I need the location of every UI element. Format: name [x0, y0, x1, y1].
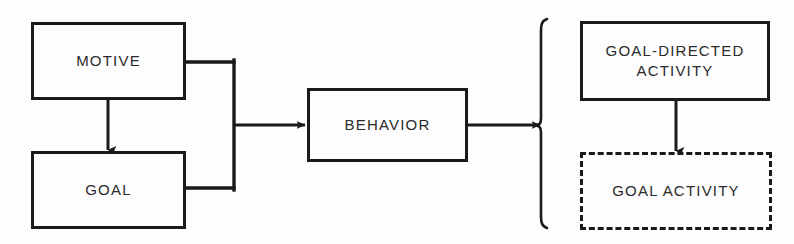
diagram-canvas: MOTIVE GOAL BEHAVIOR GOAL-DIRECTED ACTIV…: [0, 0, 794, 244]
node-goal-activity-label: GOAL ACTIVITY: [612, 181, 740, 201]
node-behavior-label: BEHAVIOR: [344, 115, 430, 135]
node-behavior[interactable]: BEHAVIOR: [307, 88, 468, 162]
node-motive[interactable]: MOTIVE: [31, 22, 186, 100]
node-motive-label: MOTIVE: [76, 51, 141, 71]
node-goal-directed-activity-label: GOAL-DIRECTED ACTIVITY: [606, 41, 745, 81]
node-goal-directed-activity[interactable]: GOAL-DIRECTED ACTIVITY: [580, 21, 770, 101]
node-goal[interactable]: GOAL: [31, 151, 186, 229]
behavior-components-bracket: [536, 19, 548, 228]
node-goal-activity[interactable]: GOAL ACTIVITY: [580, 152, 772, 230]
node-goal-label: GOAL: [85, 180, 131, 200]
